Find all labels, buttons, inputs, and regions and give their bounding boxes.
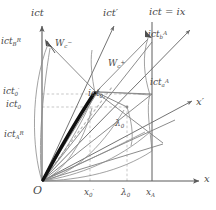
curve-left-B xyxy=(34,44,48,181)
label-lambda0-inner: λ0 xyxy=(115,119,124,129)
label-ict0-event: ict0 xyxy=(88,89,103,99)
x-axis-label: x xyxy=(204,174,210,184)
lightcone-label: ict = ix xyxy=(149,7,185,17)
label-xA: xA xyxy=(146,188,155,198)
label-ict0-prime: ict0′ xyxy=(3,87,19,97)
label-ict0: ict0 xyxy=(6,100,21,110)
figure-root: ict ict′ ict = ix x′ x O ictBR ict0′ ict… xyxy=(0,0,216,210)
minkowski-diagram-canvas xyxy=(0,0,216,210)
label-ict-B-R: ictBR xyxy=(1,37,21,47)
ray-B-to-event xyxy=(50,45,96,92)
label-ict-b-A: ictbA xyxy=(148,30,167,40)
x-prime-axis-label: x′ xyxy=(196,97,204,107)
label-ict-A-R: ictAR xyxy=(4,130,24,140)
label-Wc-minus: Wc− xyxy=(55,39,72,49)
label-lambda0-axis: λ0 xyxy=(121,188,130,198)
label-x0-prime: x0′ xyxy=(84,188,94,198)
Wc-minus-tick xyxy=(45,39,55,53)
label-ict-a-A: ictaA xyxy=(150,78,169,88)
label-Wc-plus: Wc+ xyxy=(108,59,125,69)
t-axis-label: ict xyxy=(31,8,44,18)
origin-label: O xyxy=(33,185,42,196)
event-point-lambda0 xyxy=(126,106,129,109)
t-prime-axis-label: ict′ xyxy=(103,8,118,18)
